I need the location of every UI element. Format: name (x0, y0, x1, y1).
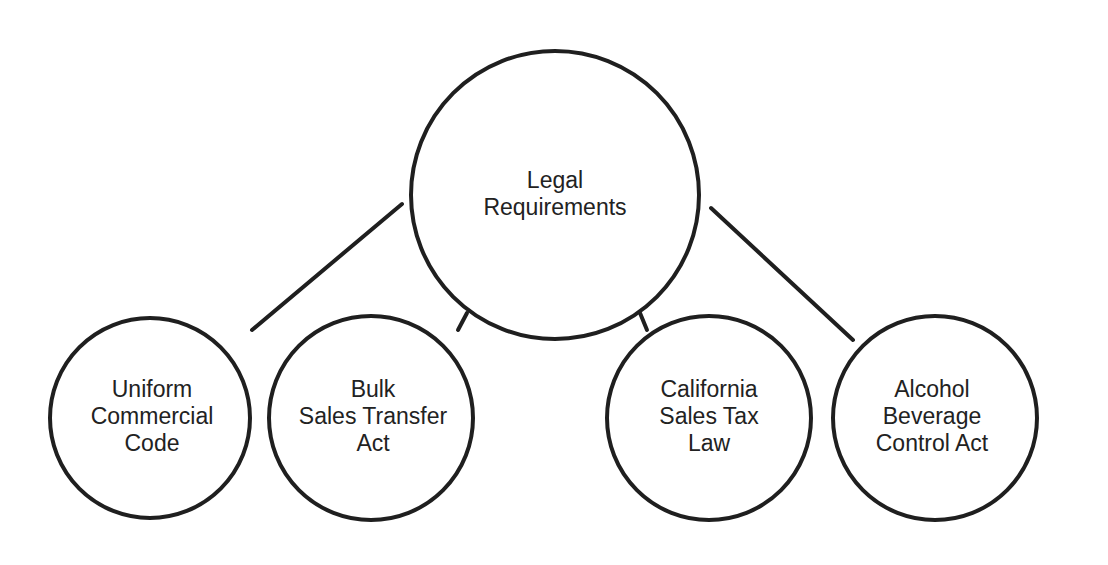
legal-requirements-diagram: Legal Requirements Uniform Commercial Co… (0, 0, 1108, 565)
node-label: Sales Transfer (299, 403, 448, 429)
node-label: Requirements (483, 194, 626, 220)
node-label: Alcohol (894, 376, 969, 402)
node-label: Beverage (883, 403, 981, 429)
connector-bulk-sales-transfer-act (458, 313, 467, 330)
node-label: Law (688, 430, 731, 456)
node-label: Act (356, 430, 390, 456)
node-alcohol-beverage-control-act: Alcohol Beverage Control Act (833, 316, 1037, 520)
node-label: California (660, 376, 757, 402)
connector-california-sales-tax-law (640, 313, 647, 330)
node-california-sales-tax-law: California Sales Tax Law (607, 316, 811, 520)
node-label: Bulk (351, 376, 396, 402)
node-label: Uniform (112, 376, 193, 402)
node-label: Control Act (876, 430, 989, 456)
node-legal-requirements: Legal Requirements (411, 51, 699, 339)
connector-uniform-commercial-code (252, 204, 402, 330)
node-uniform-commercial-code: Uniform Commercial Code (50, 318, 250, 518)
node-label: Code (125, 430, 180, 456)
node-label: Legal (527, 167, 583, 193)
node-bulk-sales-transfer-act: Bulk Sales Transfer Act (269, 316, 473, 520)
node-label: Sales Tax (659, 403, 759, 429)
node-label: Commercial (91, 403, 214, 429)
